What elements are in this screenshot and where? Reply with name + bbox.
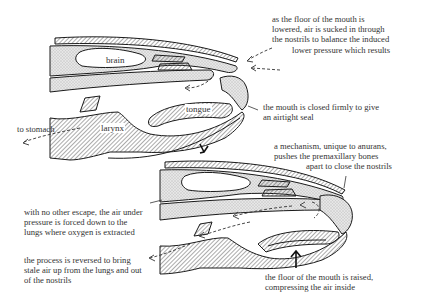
annotation-air-forced: with no other escape, the air under pres… [24,207,143,238]
annotation-mechanism: a mechanism, unique to anurans, pushes t… [274,141,392,172]
seal-leader-line [248,106,258,110]
annotation-reversed: the process is reversed to bring stale a… [24,255,142,286]
top-head-section [50,37,248,160]
mechanism-leader-line [344,176,346,188]
annotation-floor-lowered: as the floor of the mouth is lowered, ai… [272,14,390,55]
label-tongue: tongue [185,104,212,114]
bottom-head-section [160,161,352,274]
label-brain: brain [105,55,126,65]
label-larynx: larynx [100,123,125,133]
annotation-floor-raised: the floor of the mouth is raised, compre… [265,272,373,292]
annotation-mouth-closed: the mouth is closed firmly to give an ai… [263,102,379,122]
annotation-to-stomach: to stomach [17,124,54,134]
